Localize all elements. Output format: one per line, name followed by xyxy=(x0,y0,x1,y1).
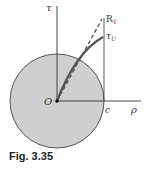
rho-axis-label: ρ xyxy=(130,104,137,115)
tau-axis-label: τ xyxy=(46,2,52,13)
origin-dot xyxy=(55,99,59,103)
c-label: c xyxy=(105,105,110,115)
origin-label: O xyxy=(44,96,52,107)
diagram: τ ρ O c RT τU xyxy=(0,0,149,171)
R-T-label: RT xyxy=(106,14,117,25)
tau-U-label: τU xyxy=(106,31,117,42)
figure-caption: Fig. 3.35 xyxy=(9,150,53,162)
